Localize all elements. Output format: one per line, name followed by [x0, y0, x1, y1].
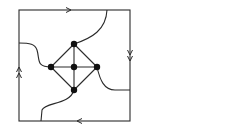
curve-top-to-top-edge: [74, 10, 107, 44]
edge-bottom-right: [74, 67, 97, 90]
vertex-left: [48, 64, 54, 70]
torus-graph-diagram: [0, 0, 234, 130]
curve-left-to-left-edge: [19, 43, 51, 67]
edge-top-left: [51, 44, 74, 67]
vertex-top: [71, 41, 77, 47]
curve-bottom-to-bottom-edge: [41, 90, 74, 121]
vertex-right: [94, 64, 100, 70]
diagram-canvas: [0, 0, 234, 130]
curve-right-to-right-edge: [97, 67, 130, 90]
edge-bottom-left: [51, 67, 74, 90]
vertex-center: [71, 64, 77, 70]
vertex-bottom: [71, 87, 77, 93]
edge-top-right: [74, 44, 97, 67]
